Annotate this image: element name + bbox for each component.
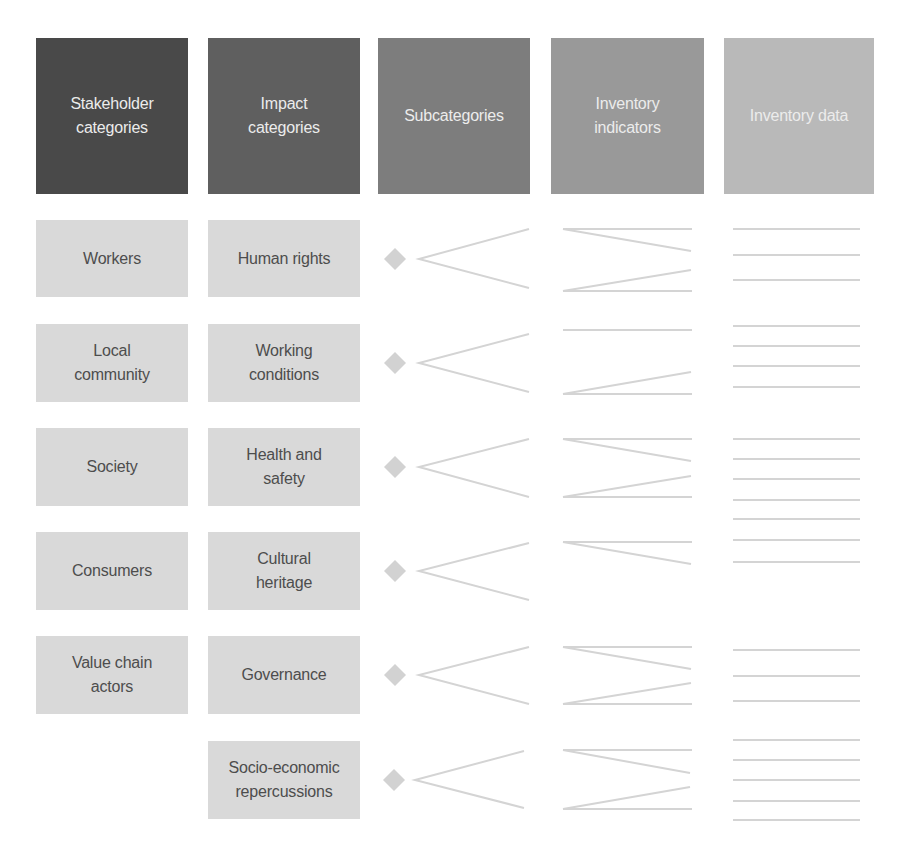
hierarchy-connector-lines	[0, 0, 903, 857]
diamond-icon	[384, 248, 406, 270]
diamond-icon	[384, 352, 406, 374]
indicator-lines-health-and-safety	[563, 439, 692, 497]
indicator-lines-working-conditions	[563, 330, 692, 394]
indicator-lines-cultural-heritage	[563, 542, 692, 564]
diamond-icon	[384, 456, 406, 478]
subcategory-fork-human-rights	[419, 229, 529, 288]
subcategory-fork-socio-economic	[415, 751, 524, 808]
data-lines-human-rights	[733, 229, 860, 280]
indicator-lines-governance	[563, 647, 692, 669]
data-lines-health-and-safety	[733, 439, 860, 562]
diamond-icon	[384, 560, 406, 582]
diamond-icon	[383, 769, 405, 791]
diamond-icon	[384, 664, 406, 686]
subcategory-fork-working-conditions	[419, 334, 529, 392]
subcategory-fork-health-and-safety	[419, 439, 529, 497]
data-lines-working-conditions	[733, 326, 860, 387]
data-lines-socio-economic	[733, 740, 860, 820]
indicator-lines-socio-economic	[563, 750, 692, 809]
data-lines-governance	[733, 650, 860, 701]
subcategory-fork-cultural-heritage	[419, 543, 529, 600]
indicator-lines-human-rights	[563, 229, 692, 291]
subcategory-fork-governance	[419, 647, 529, 704]
indicator-lines-governance-lower	[563, 683, 692, 704]
